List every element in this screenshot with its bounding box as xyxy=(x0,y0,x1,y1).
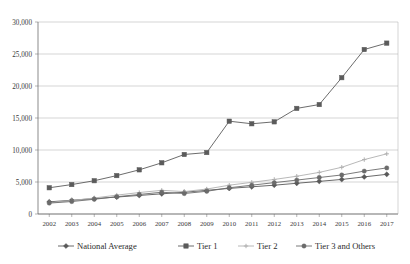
x-axis-tick-labels: 2002200320042005200620072008200920102011… xyxy=(42,214,394,227)
data-point-marker xyxy=(70,199,74,203)
x-axis-tick-label: 2006 xyxy=(132,220,146,227)
x-axis-tick-label: 2011 xyxy=(245,220,258,227)
x-axis-tick-label: 2014 xyxy=(312,220,326,227)
series-2 xyxy=(47,41,389,190)
y-axis-tick-label: 30,000 xyxy=(12,19,32,27)
series-4 xyxy=(47,166,389,206)
gridlines-group xyxy=(38,22,398,214)
data-point-marker xyxy=(272,120,276,124)
x-axis-tick-label: 2013 xyxy=(290,220,304,227)
data-point-marker xyxy=(137,168,141,172)
data-series-group xyxy=(47,41,390,205)
legend-label: Tier 3 and Others xyxy=(315,241,376,251)
data-point-marker xyxy=(182,152,186,156)
data-point-marker xyxy=(227,186,231,190)
legend-item-3[interactable]: Tier 2 xyxy=(238,241,277,251)
series-line xyxy=(49,154,387,203)
data-point-marker xyxy=(47,201,51,205)
data-point-marker xyxy=(205,189,209,193)
data-point-marker xyxy=(92,179,96,183)
y-axis-tick-labels: 30,00025,00020,00015,00010,0005,0000 xyxy=(12,19,38,219)
data-point-marker xyxy=(362,174,367,179)
data-point-marker xyxy=(160,161,164,165)
data-point-marker xyxy=(340,165,344,169)
legend-marker-icon xyxy=(63,243,68,248)
x-axis-tick-label: 2008 xyxy=(177,220,191,227)
legend-item-4[interactable]: Tier 3 and Others xyxy=(296,241,376,251)
data-point-marker xyxy=(182,191,186,195)
x-axis-tick-label: 2016 xyxy=(357,220,371,227)
x-axis-tick-label: 2005 xyxy=(110,220,124,227)
line-chart: 30,00025,00020,00015,00010,0005,0000 200… xyxy=(0,0,410,264)
data-point-marker xyxy=(362,47,366,51)
y-axis-tick-label: 25,000 xyxy=(12,51,32,59)
data-point-marker xyxy=(340,75,344,79)
data-point-marker xyxy=(205,150,209,154)
legend-marker-icon xyxy=(184,244,188,248)
series-3 xyxy=(47,152,389,205)
data-point-marker xyxy=(385,41,389,45)
legend-item-2[interactable]: Tier 1 xyxy=(178,241,217,251)
y-axis-tick-label: 20,000 xyxy=(12,83,32,91)
data-point-marker xyxy=(362,157,366,161)
data-point-marker xyxy=(115,195,119,199)
y-axis-tick-label: 10,000 xyxy=(12,147,32,155)
chart-legend: National AverageTier 1Tier 2Tier 3 and O… xyxy=(58,241,376,251)
data-point-marker xyxy=(339,177,344,182)
chart-canvas: 30,00025,00020,00015,00010,0005,0000 200… xyxy=(0,0,410,264)
data-point-marker xyxy=(317,175,321,179)
data-point-marker xyxy=(295,178,299,182)
legend-marker-icon xyxy=(244,244,248,248)
legend-item-1[interactable]: National Average xyxy=(58,241,137,251)
x-axis-tick-label: 2007 xyxy=(155,220,169,227)
x-axis-tick-label: 2002 xyxy=(42,220,56,227)
x-axis-tick-label: 2009 xyxy=(200,220,214,227)
data-point-marker xyxy=(362,169,366,173)
data-point-marker xyxy=(385,166,389,170)
data-point-marker xyxy=(47,186,51,190)
x-axis-tick-label: 2017 xyxy=(380,220,394,227)
data-point-marker xyxy=(295,106,299,110)
x-axis-tick-label: 2010 xyxy=(222,220,236,227)
data-point-marker xyxy=(137,192,141,196)
x-axis-tick-label: 2004 xyxy=(87,220,101,227)
legend-marker-icon xyxy=(302,244,306,248)
data-point-marker xyxy=(70,182,74,186)
data-point-marker xyxy=(160,190,164,194)
data-point-marker xyxy=(384,172,389,177)
legend-label: Tier 2 xyxy=(257,241,277,251)
data-point-marker xyxy=(92,197,96,201)
x-axis-tick-label: 2003 xyxy=(65,220,79,227)
data-point-marker xyxy=(317,102,321,106)
data-point-marker xyxy=(272,180,276,184)
x-axis-tick-label: 2012 xyxy=(267,220,281,227)
y-axis-tick-label: 15,000 xyxy=(12,115,32,123)
data-point-marker xyxy=(227,119,231,123)
series-line xyxy=(49,43,387,188)
y-axis-tick-label: 0 xyxy=(28,211,32,219)
x-axis-tick-label: 2015 xyxy=(335,220,349,227)
data-point-marker xyxy=(250,122,254,126)
data-point-marker xyxy=(385,152,389,156)
data-point-marker xyxy=(115,173,119,177)
series-1 xyxy=(47,172,390,205)
legend-label: National Average xyxy=(77,241,137,251)
data-point-marker xyxy=(340,173,344,177)
legend-label: Tier 1 xyxy=(197,241,217,251)
y-axis-tick-label: 5,000 xyxy=(16,179,33,187)
data-point-marker xyxy=(317,170,321,174)
data-point-marker xyxy=(250,183,254,187)
